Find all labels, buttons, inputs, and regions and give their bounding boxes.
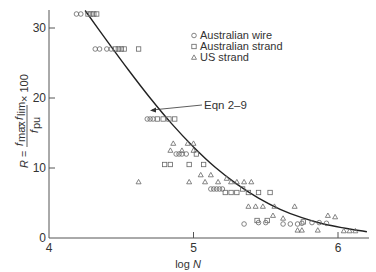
triangle-marker-icon [333, 214, 338, 218]
y-label-r: R [18, 160, 30, 168]
square-marker-icon [119, 47, 123, 51]
svg-text:pu: pu [30, 117, 42, 129]
square-marker-icon [201, 162, 205, 166]
triangle-marker-icon [187, 179, 192, 183]
triangle-marker-icon [325, 213, 330, 217]
x-axis-title: log N [175, 258, 201, 270]
circle-marker-icon [74, 12, 79, 17]
triangle-marker-icon [249, 179, 254, 183]
triangle-marker-icon [281, 216, 286, 220]
series-us-strand [136, 141, 358, 233]
circle-marker-icon [93, 47, 98, 52]
annotation-arrow-line [152, 105, 202, 110]
triangle-marker-icon [136, 179, 141, 183]
triangle-marker-icon [242, 179, 247, 183]
legend: Australian wireAustralian strandUS stran… [192, 29, 283, 63]
square-marker-icon [256, 190, 260, 194]
fatigue-chart: 0102030 456 log N R = f max − f lim f pu… [0, 0, 376, 272]
triangle-marker-icon [203, 179, 208, 183]
circle-marker-icon [105, 47, 110, 52]
y-tick-label: 10 [33, 161, 47, 175]
x-ticks: 456 [46, 232, 342, 255]
square-legend-icon [192, 44, 196, 48]
triangle-marker-icon [168, 148, 173, 152]
triangle-marker-icon [341, 228, 346, 232]
x-tick-label: 5 [190, 241, 197, 255]
x-tick-label: 6 [335, 241, 342, 255]
triangle-marker-icon [234, 179, 239, 183]
square-marker-icon [268, 190, 272, 194]
square-marker-icon [92, 12, 96, 16]
legend-item: US strand [192, 51, 249, 63]
circle-marker-icon [78, 12, 83, 17]
square-marker-icon [155, 117, 159, 121]
triangle-marker-icon [246, 204, 251, 208]
y-axis-title: R = f max − f lim f pu × 100 [13, 74, 42, 168]
triangle-marker-icon [171, 141, 176, 145]
triangle-marker-icon [260, 204, 265, 208]
square-marker-icon [162, 162, 166, 166]
svg-text:−: − [13, 123, 25, 129]
triangle-legend-icon [192, 55, 197, 59]
square-marker-icon [122, 47, 126, 51]
circle-legend-icon [192, 33, 197, 38]
triangle-marker-icon [253, 204, 258, 208]
square-marker-icon [229, 190, 233, 194]
svg-text:× 100: × 100 [18, 74, 30, 102]
square-marker-icon [161, 117, 165, 121]
triangle-marker-icon [315, 228, 320, 232]
y-tick-label: 20 [33, 91, 47, 105]
circle-marker-icon [97, 47, 102, 52]
square-marker-icon [136, 47, 140, 51]
circle-marker-icon [288, 222, 293, 227]
triangle-marker-icon [191, 141, 196, 145]
square-marker-icon [235, 190, 239, 194]
triangle-marker-icon [208, 172, 213, 176]
triangle-marker-icon [299, 228, 304, 232]
square-marker-icon [94, 12, 98, 16]
x-tick-label: 4 [46, 241, 53, 255]
triangle-marker-icon [198, 172, 203, 176]
svg-text:lim: lim [15, 102, 27, 116]
square-marker-icon [187, 162, 191, 166]
arrowhead-icon [150, 108, 156, 113]
eqn-annotation: Eqn 2–9 [150, 99, 247, 113]
triangle-marker-icon [292, 204, 297, 208]
circle-marker-icon [242, 222, 247, 227]
triangle-marker-icon [270, 213, 275, 217]
square-marker-icon [173, 117, 177, 121]
circle-marker-icon [300, 221, 305, 226]
square-marker-icon [116, 47, 120, 51]
y-tick-label: 30 [33, 21, 47, 35]
triangle-marker-icon [216, 179, 221, 183]
circle-marker-icon [281, 222, 286, 227]
square-marker-icon [168, 162, 172, 166]
circle-marker-icon [151, 117, 156, 122]
y-label-eq: = [18, 151, 30, 157]
legend-label: US strand [200, 51, 249, 63]
circle-marker-icon [295, 222, 300, 227]
annotation-label: Eqn 2–9 [204, 99, 247, 111]
